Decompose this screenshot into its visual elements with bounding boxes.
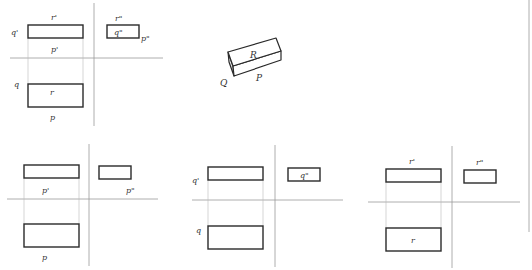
front-view-rect: [28, 25, 83, 38]
label-face-p: P: [255, 73, 263, 83]
side-view-rect: [107, 25, 139, 38]
label-p-prime: p': [51, 45, 58, 54]
label-p-double-prime: p": [126, 186, 135, 195]
label-r-prime: r': [409, 157, 415, 166]
label-r: r: [411, 236, 416, 245]
label-q: q: [196, 226, 201, 235]
label-p-double-prime: p": [141, 34, 150, 43]
label-q-prime: q': [192, 176, 199, 185]
front-view-rect: [386, 169, 441, 182]
projection-diagram: r' q' p' r" q" p" q r p R Q P p' p" p: [0, 0, 532, 270]
label-r-double-prime: r": [115, 14, 123, 23]
label-q-double-prime: q": [300, 171, 309, 180]
front-view-rect: [24, 165, 79, 178]
panel-r: r' r" r: [368, 146, 520, 268]
label-q: q: [14, 80, 19, 89]
label-p-prime: p': [42, 186, 49, 195]
plan-view-rect: [24, 224, 79, 247]
label-r-double-prime: r": [476, 158, 484, 167]
panel-q: q' q" q: [192, 145, 343, 267]
panel-main: r' q' p' r" q" p" q r p: [10, 3, 163, 126]
label-face-q: Q: [220, 78, 228, 88]
label-face-r: R: [249, 50, 257, 60]
plan-view-rect: [28, 84, 83, 107]
plan-view-rect: [208, 226, 263, 249]
label-q-double-prime: q": [114, 28, 123, 37]
label-r-prime: r': [51, 13, 57, 22]
label-r: r: [50, 88, 55, 97]
side-view-rect: [464, 170, 496, 183]
label-p: p: [42, 253, 47, 262]
isometric-block: R Q P: [220, 38, 281, 88]
label-q-prime: q': [11, 28, 18, 37]
panel-p: p' p" p: [7, 144, 158, 266]
label-p: p: [50, 113, 55, 122]
front-view-rect: [208, 167, 263, 180]
side-view-rect: [99, 166, 131, 179]
